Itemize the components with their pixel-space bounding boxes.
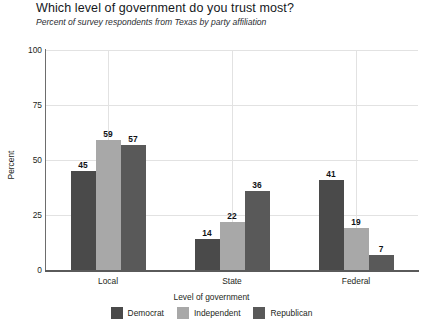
legend-swatch-icon (253, 307, 265, 319)
bar-value-label: 59 (96, 129, 121, 139)
bar (220, 222, 245, 270)
bar (319, 180, 344, 270)
chart-subtitle: Percent of survey respondents from Texas… (36, 17, 266, 27)
chart-legend: DemocratIndependentRepublican (0, 307, 423, 319)
bar-value-label: 22 (220, 211, 245, 221)
chart-title: Which level of government do you trust m… (36, 1, 294, 15)
legend-swatch-icon (111, 307, 123, 319)
x-axis-label: Level of government (0, 292, 423, 302)
x-axis-tick-label: Federal (342, 276, 370, 286)
y-axis-label: Percent (6, 135, 16, 195)
legend-swatch-icon (177, 307, 189, 319)
bar-chart: Which level of government do you trust m… (0, 0, 423, 330)
x-axis-line (45, 270, 419, 272)
y-axis-tick-label: 0 (2, 265, 42, 275)
y-axis-tick-label: 25 (2, 210, 42, 220)
bar-value-label: 41 (319, 169, 344, 179)
bar-value-label: 14 (195, 228, 220, 238)
legend-item[interactable]: Independent (177, 307, 241, 319)
bar (245, 191, 270, 270)
legend-label: Democrat (128, 308, 164, 318)
y-axis-tick-label: 100 (2, 45, 42, 55)
bar (121, 145, 146, 270)
bar (96, 140, 121, 270)
legend-label: Independent (194, 308, 241, 318)
legend-label: Republican (270, 308, 312, 318)
x-axis-tick-label: State (222, 276, 242, 286)
bar-value-label: 36 (245, 180, 270, 190)
y-axis-tick-label: 75 (2, 100, 42, 110)
bar (344, 228, 369, 270)
bar-value-label: 19 (344, 217, 369, 227)
x-axis-tick-label: Local (98, 276, 118, 286)
legend-item[interactable]: Democrat (111, 307, 164, 319)
bar-value-label: 7 (369, 244, 394, 254)
bar-value-label: 57 (121, 134, 146, 144)
bar-value-label: 45 (71, 160, 96, 170)
bar (369, 255, 394, 270)
bar (195, 239, 220, 270)
plot-area: 45595714223641197 (46, 50, 418, 270)
legend-item[interactable]: Republican (253, 307, 312, 319)
bar (71, 171, 96, 270)
